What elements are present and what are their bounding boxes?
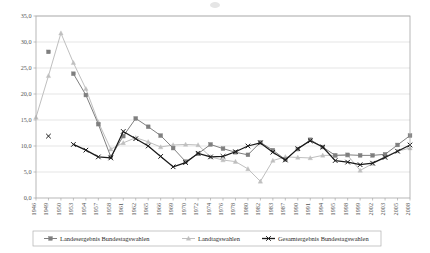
data-point-marker xyxy=(134,117,138,121)
x-axis-tick-label: 1974 xyxy=(205,203,212,215)
x-axis-tick-label: 1965 xyxy=(142,203,149,215)
legend-item-3[interactable]: Gesamtergebnis Bundestagswahlen xyxy=(262,235,369,242)
y-axis-tick-label: 10,0 xyxy=(21,142,32,149)
x-axis-tick-label: 2002 xyxy=(367,203,374,215)
chart-container: 0,05,010,015,020,025,030,035,0 194619491… xyxy=(0,0,430,253)
x-axis-tick-label: 1953 xyxy=(67,203,74,215)
legend-item-label: Landtagswahlen xyxy=(198,235,241,242)
x-axis-tick-label: 1962 xyxy=(130,203,137,215)
data-point-marker xyxy=(72,72,76,76)
x-axis-tick-label: 1949 xyxy=(42,203,49,215)
legend-item-label: Gesamtergebnis Bundestagswahlen xyxy=(278,235,369,242)
x-axis-tick-label: 1990 xyxy=(292,203,299,215)
x-axis-tick-label: 1961 xyxy=(117,203,124,215)
data-point-marker xyxy=(47,50,51,54)
y-axis-tick-label: 25,0 xyxy=(21,64,32,71)
data-point-marker xyxy=(84,93,88,97)
line-chart: 0,05,010,015,020,025,030,035,0 194619491… xyxy=(0,0,430,253)
x-axis-tick-label: 1982 xyxy=(254,203,261,215)
data-point-marker xyxy=(146,125,150,129)
x-axis-tick-label: 1999 xyxy=(354,203,361,215)
x-axis-tick-label: 1987 xyxy=(279,203,286,215)
chart-background xyxy=(0,0,430,253)
legend-item-1[interactable]: Landesergebnis Bundestagswahlen xyxy=(44,235,150,242)
x-axis-tick-label: 1969 xyxy=(167,203,174,215)
data-point-marker xyxy=(371,153,375,157)
data-point-marker xyxy=(358,153,362,157)
x-axis-tick-label: 1995 xyxy=(329,203,336,215)
scan-artifact xyxy=(210,2,220,8)
y-axis-tick-label: 35,0 xyxy=(21,12,32,19)
x-axis-tick-label: 1950 xyxy=(55,203,62,215)
x-axis-tick-label: 1991 xyxy=(304,203,311,215)
y-axis-tick-label: 0,0 xyxy=(24,194,32,201)
x-axis-tick-label: 1998 xyxy=(342,203,349,215)
data-point-marker xyxy=(209,143,213,147)
x-axis-tick-label: 2008 xyxy=(404,203,411,215)
data-point-marker xyxy=(96,122,100,126)
x-axis-tick-label: 1946 xyxy=(30,203,37,215)
x-axis-tick-label: 1972 xyxy=(192,203,199,215)
x-axis-tick-label: 1976 xyxy=(217,203,224,215)
legend-item-label: Landesergebnis Bundestagswahlen xyxy=(60,235,150,242)
x-axis-tick-label: 1983 xyxy=(267,203,274,215)
data-point-marker xyxy=(333,153,337,157)
data-point-marker xyxy=(159,134,163,138)
data-point-marker xyxy=(221,147,225,151)
y-axis-tick-label: 15,0 xyxy=(21,116,32,123)
x-axis-tick-label: 1957 xyxy=(92,203,99,215)
x-axis-tick-label: 2003 xyxy=(379,203,386,215)
x-axis-tick-label: 1970 xyxy=(180,203,187,215)
y-axis-tick-label: 20,0 xyxy=(21,90,32,97)
x-axis-tick-label: 2005 xyxy=(392,203,399,215)
x-axis-tick-label: 1980 xyxy=(242,203,249,215)
data-point-marker xyxy=(171,146,175,150)
y-axis-tick-label: 30,0 xyxy=(21,38,32,45)
data-point-marker xyxy=(246,153,250,157)
x-axis-tick-label: 1954 xyxy=(80,203,87,215)
x-axis-tick-label: 1994 xyxy=(317,203,324,215)
x-axis-tick-label: 1966 xyxy=(155,203,162,215)
data-point-marker xyxy=(396,143,400,147)
y-axis-tick-label: 5,0 xyxy=(24,168,32,175)
data-point-marker xyxy=(346,153,350,157)
x-axis-tick-label: 1978 xyxy=(229,203,236,215)
x-axis-tick-label: 1958 xyxy=(105,203,112,215)
data-point-marker xyxy=(49,237,53,241)
